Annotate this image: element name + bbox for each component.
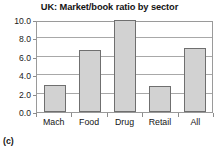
y-axis-tick-label: 8.0: [19, 34, 31, 44]
bar[interactable]: [44, 85, 66, 112]
x-axis-labels: MachFoodDrugRetailAll: [36, 117, 213, 127]
x-axis-tick-mark: [213, 113, 214, 117]
x-axis-tick-label: Drug: [107, 117, 142, 127]
chart-title: UK: Market/book ratio by sector: [0, 2, 219, 12]
y-axis-tick-label: 10.0: [14, 16, 31, 26]
bar-slot: [37, 22, 72, 112]
bar[interactable]: [79, 50, 101, 112]
chart-figure: UK: Market/book ratio by sector 0.02.04.…: [0, 0, 219, 160]
y-axis: 0.02.04.06.08.010.0: [0, 21, 36, 113]
x-axis-tick-label: Food: [71, 117, 106, 127]
x-axis-tick-label: Mach: [36, 117, 71, 127]
y-axis-tick-label: 0.0: [19, 108, 31, 118]
bar-slot: [142, 22, 177, 112]
bar-slot: [107, 22, 142, 112]
bar[interactable]: [114, 20, 136, 112]
x-axis-tick-label: All: [178, 117, 213, 127]
bar[interactable]: [149, 86, 171, 112]
bar[interactable]: [184, 48, 206, 112]
bar-slot: [177, 22, 212, 112]
bar-slot: [72, 22, 107, 112]
figure-caption: (c): [3, 136, 14, 146]
bar-series: [37, 22, 212, 112]
y-axis-tick-label: 4.0: [19, 71, 31, 81]
y-axis-tick-label: 2.0: [19, 90, 31, 100]
plot-area: [36, 21, 213, 113]
x-axis-tick-label: Retail: [142, 117, 177, 127]
y-axis-tick-label: 6.0: [19, 53, 31, 63]
